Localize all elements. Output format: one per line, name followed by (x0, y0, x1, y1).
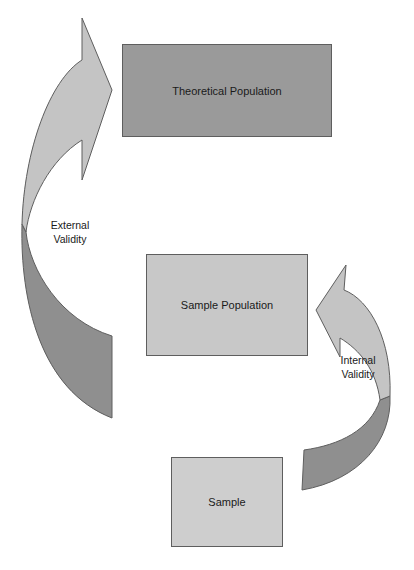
sample-population-label: Sample Population (181, 299, 273, 311)
theoretical-population-label: Theoretical Population (172, 85, 281, 97)
sample-box: Sample (171, 457, 283, 547)
external-validity-label: External Validity (40, 218, 100, 246)
theoretical-population-box: Theoretical Population (122, 44, 332, 137)
sample-population-box: Sample Population (146, 254, 308, 356)
sample-label: Sample (208, 496, 245, 508)
diagram-canvas: Theoretical Population Sample Population… (0, 0, 414, 570)
internal-validity-label: Internal Validity (328, 353, 388, 381)
